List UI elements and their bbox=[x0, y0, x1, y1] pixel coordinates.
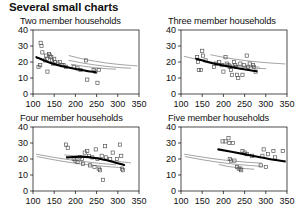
svg-text:200: 200 bbox=[68, 196, 83, 206]
svg-text:350: 350 bbox=[131, 196, 146, 206]
svg-text:0: 0 bbox=[23, 186, 28, 196]
plot-two-member: 010203040100150200250300350 bbox=[0, 26, 148, 118]
svg-text:100: 100 bbox=[25, 196, 40, 206]
svg-text:300: 300 bbox=[258, 196, 273, 206]
svg-text:0: 0 bbox=[23, 89, 28, 99]
svg-text:10: 10 bbox=[166, 73, 176, 83]
plot-four-member: 010203040100150200250300350 bbox=[0, 123, 148, 215]
svg-text:30: 30 bbox=[166, 138, 176, 148]
chart-title-four-member: Four member households bbox=[20, 113, 123, 123]
svg-text:20: 20 bbox=[166, 57, 176, 67]
chart-title-five-member: Five member households bbox=[168, 113, 269, 123]
svg-text:100: 100 bbox=[173, 196, 188, 206]
svg-text:200: 200 bbox=[68, 99, 83, 109]
svg-text:350: 350 bbox=[131, 99, 146, 109]
svg-text:250: 250 bbox=[89, 196, 104, 206]
plot-three-member: 010203040100150200250300350 bbox=[148, 26, 296, 118]
svg-text:150: 150 bbox=[195, 196, 210, 206]
svg-text:20: 20 bbox=[166, 154, 176, 164]
svg-text:20: 20 bbox=[18, 154, 28, 164]
svg-text:150: 150 bbox=[47, 99, 62, 109]
svg-text:300: 300 bbox=[258, 99, 273, 109]
svg-text:150: 150 bbox=[47, 196, 62, 206]
svg-text:300: 300 bbox=[110, 196, 125, 206]
svg-text:100: 100 bbox=[173, 99, 188, 109]
svg-text:20: 20 bbox=[18, 57, 28, 67]
svg-text:10: 10 bbox=[166, 170, 176, 180]
svg-text:300: 300 bbox=[110, 99, 125, 109]
plot-five-member: 010203040100150200250300350 bbox=[148, 123, 296, 215]
svg-text:40: 40 bbox=[166, 123, 176, 132]
svg-text:0: 0 bbox=[171, 89, 176, 99]
svg-text:200: 200 bbox=[216, 196, 231, 206]
svg-text:30: 30 bbox=[18, 41, 28, 51]
chart-title-two-member: Two member households bbox=[20, 16, 121, 26]
svg-text:10: 10 bbox=[18, 73, 28, 83]
page-title: Several small charts bbox=[9, 1, 118, 13]
svg-text:250: 250 bbox=[237, 99, 252, 109]
svg-text:350: 350 bbox=[279, 196, 294, 206]
svg-text:250: 250 bbox=[237, 196, 252, 206]
svg-text:200: 200 bbox=[216, 99, 231, 109]
svg-text:250: 250 bbox=[89, 99, 104, 109]
svg-text:350: 350 bbox=[279, 99, 294, 109]
svg-text:40: 40 bbox=[18, 123, 28, 132]
svg-text:40: 40 bbox=[166, 26, 176, 35]
svg-text:30: 30 bbox=[166, 41, 176, 51]
svg-text:40: 40 bbox=[18, 26, 28, 35]
svg-text:0: 0 bbox=[171, 186, 176, 196]
svg-text:30: 30 bbox=[18, 138, 28, 148]
svg-text:150: 150 bbox=[195, 99, 210, 109]
chart-title-three-member: Three member households bbox=[168, 16, 276, 26]
svg-text:10: 10 bbox=[18, 170, 28, 180]
svg-text:100: 100 bbox=[25, 99, 40, 109]
